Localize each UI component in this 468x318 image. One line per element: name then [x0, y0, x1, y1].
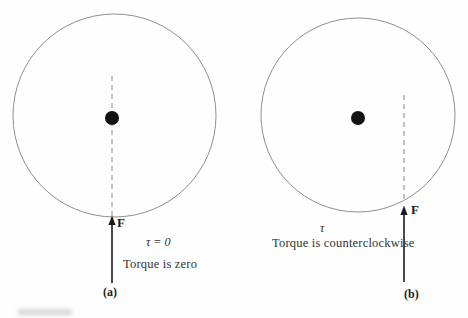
panel-label-b: (b)	[404, 288, 419, 300]
torque-diagram: F τ = 0 Torque is zero (a) F τ Torque is…	[0, 0, 468, 318]
torque-equation-b: τ	[320, 222, 324, 234]
caption-a: Torque is zero	[123, 258, 197, 271]
panel-label-a: (a)	[103, 286, 117, 298]
pivot-dot-a	[105, 111, 119, 125]
force-arrow-b-head	[400, 206, 407, 216]
force-label-b: F	[411, 203, 419, 216]
torque-equation-a: τ = 0	[146, 236, 170, 248]
pivot-dot-b	[351, 111, 365, 125]
scan-artifact	[18, 309, 72, 315]
caption-b: Torque is counterclockwise	[272, 237, 414, 250]
force-label-a: F	[117, 216, 125, 229]
diagram-canvas	[0, 0, 468, 318]
